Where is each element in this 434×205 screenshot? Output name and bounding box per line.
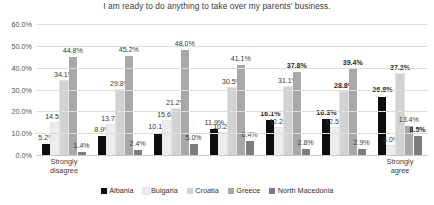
bar-value-label: 2.9% [354,139,370,147]
bar-bulgaria[interactable] [163,121,171,155]
bar-value-label: 45.2% [119,46,139,54]
legend-item-albania[interactable]: Albania [101,186,134,195]
bar-croatia[interactable] [172,109,180,155]
bar-albania[interactable] [98,136,106,155]
gridline [36,46,428,47]
bar-bulgaria[interactable] [331,128,339,155]
y-axis-tick-label: 60.0% [0,20,32,29]
legend-item-north-macedonia[interactable]: North Macedonia [269,186,333,195]
chart-container: I am ready to do anything to take over m… [0,0,434,205]
bar-croatia[interactable] [60,81,68,155]
bar-value-label: 2.8% [298,139,314,147]
y-axis-tick-label: 20.0% [0,107,32,116]
bar-value-label: 37.8% [287,62,307,70]
legend-item-greece[interactable]: Greece [228,186,260,195]
legend-label: Albania [109,186,133,195]
plot-area: 5.2%14.5%34.1%44.8%1.4%8.9%13.7%29.8%45.… [36,24,428,155]
legend-label: Bulgaria [151,186,178,195]
bar-value-label: 39.4% [343,59,363,67]
bar-value-label: 2.4% [130,140,146,148]
legend-label: North Macedonia [278,186,334,195]
gridline [36,111,428,112]
legend-swatch-icon [143,188,149,194]
legend-item-croatia[interactable]: Croatia [187,186,219,195]
bar-value-label: 44.8% [63,47,83,55]
legend-swatch-icon [101,188,107,194]
x-axis-line [36,155,428,156]
legend-label: Greece [236,186,260,195]
bar-value-label: 1.4% [74,142,90,150]
bar-greece[interactable] [237,65,245,155]
bar-value-label: 48.0% [175,40,195,48]
legend-swatch-icon [269,188,275,194]
gridline [36,90,428,91]
chart-legend: AlbaniaBulgariaCroatiaGreeceNorth Macedo… [0,186,434,195]
bar-croatia[interactable] [340,92,348,155]
gridline [36,133,428,134]
bar-greece[interactable] [69,57,77,155]
gridline [36,68,428,69]
legend-label: Croatia [195,186,219,195]
y-axis-tick-label: 50.0% [0,41,32,50]
bar-croatia[interactable] [396,74,404,155]
bar-albania[interactable] [154,133,162,155]
chart-title: I am ready to do anything to take over m… [0,1,434,11]
bar-value-label: 41.1% [231,55,251,63]
y-axis-tick-label: 0.0% [0,151,32,160]
x-axis-tick-label: Strongly disagree [50,157,78,176]
bar-bulgaria[interactable] [51,123,59,155]
gridline [36,24,428,25]
y-axis-tick-label: 40.0% [0,63,32,72]
bar-albania[interactable] [42,144,50,155]
y-axis-labels: 0.0%10.0%20.0%30.0%40.0%50.0%60.0% [0,24,34,155]
bar-croatia[interactable] [116,90,124,155]
bar-value-label: 13.4% [399,116,419,124]
legend-swatch-icon [228,188,234,194]
legend-item-bulgaria[interactable]: Bulgaria [143,186,178,195]
bar-croatia[interactable] [284,87,292,155]
bar-albania[interactable] [378,97,386,156]
y-axis-tick-label: 10.0% [0,129,32,138]
y-axis-tick-label: 30.0% [0,85,32,94]
bar-bulgaria[interactable] [219,133,227,155]
x-axis-labels: Strongly disagreeStrongly agree [36,157,428,181]
bar-bulgaria[interactable] [107,125,115,155]
bar-croatia[interactable] [228,88,236,155]
bar-value-label: 5.0% [186,134,202,142]
x-axis-tick-label: Strongly agree [386,157,414,176]
bar-north-macedonia[interactable] [246,141,254,155]
bar-north-macedonia[interactable] [190,144,198,155]
bar-north-macedonia[interactable] [414,136,422,155]
legend-swatch-icon [187,188,193,194]
bar-bulgaria[interactable] [387,146,395,155]
